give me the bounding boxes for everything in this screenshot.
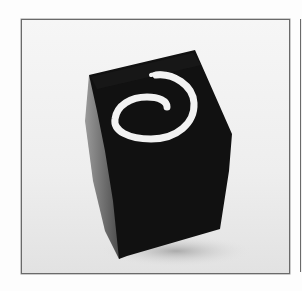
cube-photo (22, 20, 289, 273)
adjacent-photo-frame-edge (300, 19, 302, 272)
spiral-tail (151, 74, 169, 76)
page-canvas (0, 0, 302, 291)
photo-frame (21, 19, 290, 274)
